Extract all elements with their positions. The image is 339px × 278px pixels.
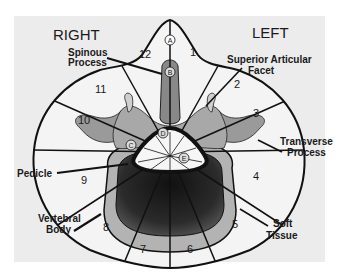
point-e-letter: E: [182, 155, 187, 162]
zone-3: 3: [253, 107, 259, 119]
right-side-label: RIGHT: [53, 26, 100, 43]
zone-2: 2: [234, 78, 240, 90]
vertebral-body-line1: Vertebral: [38, 213, 81, 224]
transverse-process-line1: Transverse: [280, 136, 333, 147]
point-b: B: [165, 67, 175, 77]
zone-7: 7: [140, 243, 146, 255]
point-a: A: [165, 35, 175, 45]
superior-articular-facet-line2: Facet: [248, 65, 275, 76]
zone-11: 11: [95, 83, 106, 95]
zone-5: 5: [232, 218, 238, 230]
spinous-process-line2: Process: [68, 57, 107, 68]
vertebra-zone-diagram: A B C D E 1 2 3 4 5 6 7 8 9 10 11 12 RI: [0, 0, 339, 278]
point-c: C: [126, 140, 136, 150]
soft-tissue-line2: Tissue: [266, 230, 298, 241]
zone-12: 12: [139, 48, 151, 60]
superior-articular-facet-line1: Superior Articular: [227, 54, 312, 65]
point-e: E: [179, 153, 189, 163]
vertebral-body-line2: Body: [46, 224, 71, 235]
zone-4: 4: [253, 170, 259, 182]
soft-tissue-line1: Soft: [273, 218, 293, 229]
left-side-label: LEFT: [252, 24, 289, 41]
zone-9: 9: [81, 174, 87, 186]
zone-1: 1: [190, 46, 196, 58]
point-d: D: [158, 128, 168, 138]
point-c-letter: C: [128, 142, 133, 149]
zone-10: 10: [78, 114, 90, 126]
transverse-process-line2: Process: [287, 147, 326, 158]
point-d-letter: D: [160, 130, 165, 137]
point-b-letter: B: [168, 69, 173, 76]
pedicle-line1: Pedicle: [17, 168, 52, 179]
zone-6: 6: [187, 243, 193, 255]
zone-8: 8: [103, 221, 109, 233]
point-a-letter: A: [168, 37, 173, 44]
